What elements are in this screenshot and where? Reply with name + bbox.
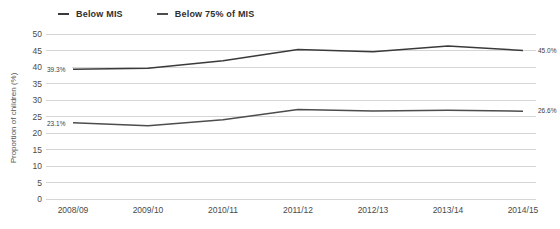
y-tick-label: 30 [33,95,43,105]
x-tick-label: 2010/11 [208,205,238,215]
x-tick-label: 2008/09 [58,205,89,215]
x-tick-label: 2013/14 [433,205,464,215]
first-point-label: 23.1% [47,120,66,127]
last-point-label: 45.0% [538,47,557,54]
y-tick-label: 40 [33,62,43,72]
y-tick-label: 45 [33,46,43,56]
y-tick-label: 25 [33,112,43,122]
x-tick-label: 2009/10 [133,205,164,215]
x-tick-label: 2012/13 [358,205,389,215]
last-point-label: 26.6% [538,107,557,114]
chart-plot-area: 051015202530354045502008/092009/102010/1… [0,0,560,229]
series-line-2 [73,110,523,126]
y-tick-label: 50 [33,29,43,39]
line-chart-figure: Below MIS Below 75% of MIS Proportion of… [0,0,560,229]
y-tick-label: 5 [37,178,42,188]
series-line-1 [73,46,523,69]
y-tick-label: 10 [33,161,43,171]
x-tick-label: 2011/12 [283,205,313,215]
first-point-label: 39.3% [47,66,66,73]
y-tick-label: 15 [33,145,43,155]
y-tick-label: 0 [37,194,42,204]
x-tick-label: 2014/15 [508,205,539,215]
y-tick-label: 20 [33,128,43,138]
y-tick-label: 35 [33,79,43,89]
